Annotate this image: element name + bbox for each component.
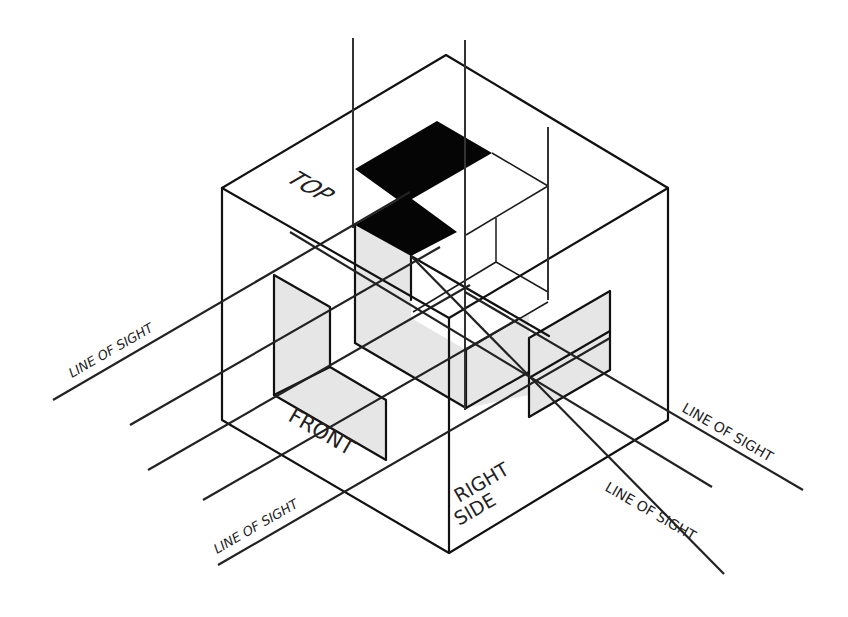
line-of-sight-label-right-lower: LINE OF SIGHT [603, 479, 700, 544]
top-label: TOP [278, 168, 343, 205]
top-projection-solid [355, 121, 492, 256]
line-of-sight-label-right-upper: LINE OF SIGHT [680, 400, 777, 465]
line-of-sight-label-front: LINE OF SIGHT [211, 496, 302, 557]
line-of-sight-label-left: LINE OF SIGHT [66, 320, 157, 381]
projection-diagram: TOP FRONT RIGHT SIDE LINE OF SIGHT LINE … [0, 0, 848, 617]
object-shading [355, 225, 529, 408]
